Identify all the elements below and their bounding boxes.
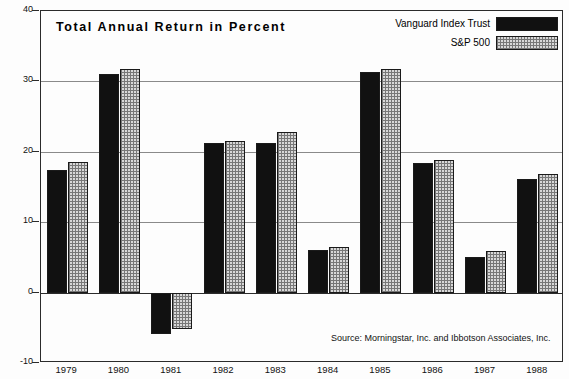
legend-item-sp500: S&P 500 bbox=[386, 35, 558, 50]
y-tick-mark--10 bbox=[32, 362, 39, 363]
y-tick-mark-10 bbox=[32, 221, 39, 222]
bar-1988-vanguard bbox=[517, 179, 537, 292]
bar-1983-sp500 bbox=[277, 132, 297, 293]
y-tick-label-0: 0 bbox=[5, 287, 33, 296]
plot-area: Total Annual Return in Percent Vanguard … bbox=[40, 10, 563, 362]
bar-1985-vanguard bbox=[360, 72, 380, 292]
bar-1980-sp500 bbox=[120, 69, 140, 293]
bar-1981-sp500 bbox=[172, 293, 192, 330]
x-tick-label-1979: 1979 bbox=[44, 365, 88, 375]
bar-1985-sp500 bbox=[381, 69, 401, 293]
legend-swatch-sp500 bbox=[496, 36, 558, 50]
x-tick-label-1985: 1985 bbox=[358, 365, 402, 375]
y-tick-mark-0 bbox=[32, 292, 39, 293]
y-tick-mark-40 bbox=[32, 10, 39, 11]
y-tick-mark-20 bbox=[32, 151, 39, 152]
x-tick-label-1981: 1981 bbox=[149, 365, 193, 375]
source-note: Source: Morningstar, Inc. and Ibbotson A… bbox=[331, 333, 551, 343]
chart-title: Total Annual Return in Percent bbox=[56, 20, 286, 34]
chart-container: 403020100-10 Total Annual Return in Perc… bbox=[0, 0, 569, 379]
x-tick-label-1983: 1983 bbox=[253, 365, 297, 375]
x-tick-label-1982: 1982 bbox=[201, 365, 245, 375]
bars-layer bbox=[41, 11, 562, 361]
bar-1980-vanguard bbox=[99, 74, 119, 293]
x-tick-label-1986: 1986 bbox=[410, 365, 454, 375]
bar-1982-sp500 bbox=[225, 141, 245, 293]
y-tick-label-40: 40 bbox=[5, 5, 33, 14]
x-tick-label-1980: 1980 bbox=[96, 365, 140, 375]
bar-1979-sp500 bbox=[68, 162, 88, 292]
legend-swatch-vanguard bbox=[496, 17, 558, 31]
legend-label-vanguard: Vanguard Index Trust bbox=[395, 18, 490, 29]
bar-1979-vanguard bbox=[47, 170, 67, 292]
bar-1987-sp500 bbox=[486, 251, 506, 293]
legend: Vanguard Index Trust S&P 500 bbox=[386, 16, 558, 54]
y-tick-label-10: 10 bbox=[5, 216, 33, 225]
x-tick-label-1984: 1984 bbox=[306, 365, 350, 375]
bar-1981-vanguard bbox=[151, 293, 171, 335]
bar-1984-sp500 bbox=[329, 247, 349, 293]
bar-1987-vanguard bbox=[465, 257, 485, 293]
y-tick-label--10: -10 bbox=[5, 357, 33, 366]
legend-label-sp500: S&P 500 bbox=[451, 37, 490, 48]
y-tick-label-30: 30 bbox=[5, 75, 33, 84]
x-tick-label-1988: 1988 bbox=[515, 365, 559, 375]
bar-1982-vanguard bbox=[204, 143, 224, 293]
y-tick-label-20: 20 bbox=[5, 146, 33, 155]
bar-1983-vanguard bbox=[256, 143, 276, 293]
bar-1986-sp500 bbox=[434, 160, 454, 292]
y-tick-mark-30 bbox=[32, 80, 39, 81]
bar-1986-vanguard bbox=[413, 163, 433, 293]
bar-1988-sp500 bbox=[538, 174, 558, 292]
bar-1984-vanguard bbox=[308, 250, 328, 293]
x-tick-label-1987: 1987 bbox=[463, 365, 507, 375]
legend-item-vanguard: Vanguard Index Trust bbox=[386, 16, 558, 31]
